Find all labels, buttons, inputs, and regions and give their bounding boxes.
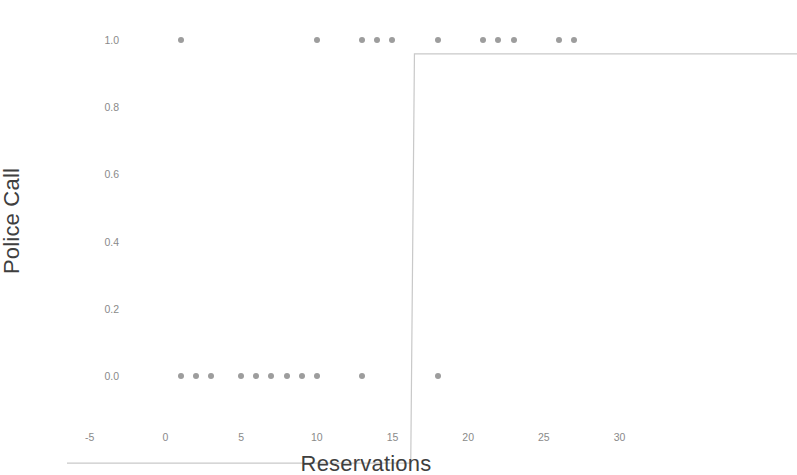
y-axis-title: Police Call [0, 131, 25, 311]
data-point [480, 37, 486, 43]
data-point [314, 373, 320, 379]
x-tick-label: 5 [238, 431, 244, 443]
y-tick-label: 0.6 [104, 168, 119, 180]
data-point [495, 37, 501, 43]
data-point [208, 373, 214, 379]
data-point [571, 37, 577, 43]
data-point [299, 373, 305, 379]
y-tick-label: 1.0 [104, 34, 119, 46]
data-point [556, 37, 562, 43]
data-point [511, 37, 517, 43]
data-point [193, 373, 199, 379]
x-tick-label: 15 [387, 431, 399, 443]
data-point [359, 373, 365, 379]
x-tick-label: 10 [311, 431, 323, 443]
fitted-curve [67, 27, 797, 475]
x-tick-label: 0 [162, 431, 168, 443]
data-point [389, 37, 395, 43]
y-tick-label: 0.0 [104, 370, 119, 382]
x-tick-label: 30 [614, 431, 626, 443]
y-tick-label: 0.4 [104, 236, 119, 248]
x-tick-label: 20 [462, 431, 474, 443]
y-tick-label: 0.8 [104, 101, 119, 113]
data-point [314, 37, 320, 43]
data-point [359, 37, 365, 43]
x-tick-label: 25 [538, 431, 550, 443]
data-point [268, 373, 274, 379]
plot-area: 0.00.20.40.60.81.0 -5051015202530 Reserv… [67, 27, 665, 389]
data-point [238, 373, 244, 379]
data-point [178, 37, 184, 43]
data-point [284, 373, 290, 379]
data-point [435, 373, 441, 379]
data-point [178, 373, 184, 379]
data-point [435, 37, 441, 43]
y-tick-label: 0.2 [104, 303, 119, 315]
x-tick-label: -5 [85, 431, 94, 443]
x-axis-title: Reservations [67, 451, 665, 475]
data-point [374, 37, 380, 43]
data-point [253, 373, 259, 379]
